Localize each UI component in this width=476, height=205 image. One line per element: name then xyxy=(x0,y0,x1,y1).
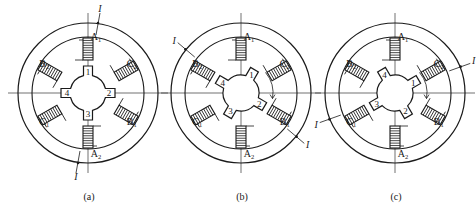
current-arrowhead xyxy=(77,162,80,165)
pole-label-A1: A1 xyxy=(398,31,408,43)
coil-lead xyxy=(119,98,123,105)
coil-A2 xyxy=(390,126,400,148)
pole-A2 xyxy=(390,126,408,148)
rotor-tooth-label: 2 xyxy=(257,99,262,109)
coil-lead xyxy=(136,112,138,115)
pole-A2 xyxy=(236,126,254,148)
current-arrowhead xyxy=(295,135,298,138)
current-arrowhead xyxy=(184,48,187,51)
pole-label-C2: C2 xyxy=(280,58,290,70)
coil-lead xyxy=(360,81,364,88)
coil-lead xyxy=(62,114,66,121)
rotor-tooth-label: 2 xyxy=(107,88,112,98)
rotor-tooth-label: 3 xyxy=(228,106,233,116)
current-label: I xyxy=(97,3,102,14)
panel-caption: (c) xyxy=(390,191,401,203)
coil-lead xyxy=(53,81,57,88)
panels-root: A1C2B1A2C1B21234II(a)A1C2B1A2C1B21234II(… xyxy=(8,3,476,203)
coil-lead xyxy=(345,71,347,74)
stepper-motor-figure: A1C2B1A2C1B21234II(a)A1C2B1A2C1B21234II(… xyxy=(0,0,476,205)
rotor-tooth-label: 1 xyxy=(411,78,416,88)
coil-lead xyxy=(272,98,276,105)
pole-label-A1: A1 xyxy=(244,31,254,43)
coil-lead xyxy=(417,65,421,72)
panel-caption: (a) xyxy=(83,191,94,203)
pole-label-B2: B2 xyxy=(346,58,356,70)
panel-a: A1C2B1A2C1B21234II(a) xyxy=(8,3,168,203)
current-label: I xyxy=(471,55,476,66)
coil-lead xyxy=(443,112,445,115)
pole-label-A2: A2 xyxy=(91,148,101,160)
current-label: I xyxy=(305,139,310,150)
panel-b: A1C2B1A2C1B21234II(b) xyxy=(161,13,321,203)
pole-label-A2: A2 xyxy=(244,148,254,160)
pole-A2 xyxy=(83,126,101,148)
rotor-tooth-label: 3 xyxy=(86,109,91,119)
rotor-tooth-label: 2 xyxy=(403,106,408,116)
pole-label-C2: C2 xyxy=(434,58,444,70)
rotor-tooth-label: 4 xyxy=(382,70,387,80)
current-label: I xyxy=(73,171,78,182)
rotor-tooth-label: 1 xyxy=(249,70,254,80)
panel-c: A1C2B1A2C1B21234II(c) xyxy=(314,13,476,203)
current-arrowhead xyxy=(459,65,462,68)
rotor-tooth-label: 1 xyxy=(86,67,91,77)
coil-lead xyxy=(110,65,114,72)
pole-label-B2: B2 xyxy=(39,58,49,70)
pole-label-B2: B2 xyxy=(192,58,202,70)
rotor-tooth-label: 3 xyxy=(375,99,380,109)
current-label: I xyxy=(172,35,177,46)
coil-lead xyxy=(263,65,267,72)
pole-label-A2: A2 xyxy=(398,148,408,160)
coil-lead xyxy=(369,114,373,121)
current-arrowhead xyxy=(97,22,100,25)
coil-lead xyxy=(289,112,291,115)
coil-lead xyxy=(206,81,210,88)
coil-lead xyxy=(426,98,430,105)
coil-A2 xyxy=(83,126,93,148)
rotor-tooth-label: 4 xyxy=(65,88,70,98)
panel-caption: (b) xyxy=(236,191,248,203)
current-arrowhead xyxy=(328,118,331,121)
rotor-tooth-label: 4 xyxy=(221,78,226,88)
coil-lead xyxy=(38,71,40,74)
pole-label-C2: C2 xyxy=(127,58,137,70)
coil-lead xyxy=(191,71,193,74)
coil-A2 xyxy=(236,126,246,148)
current-label: I xyxy=(314,119,319,130)
coil-lead xyxy=(215,114,219,121)
